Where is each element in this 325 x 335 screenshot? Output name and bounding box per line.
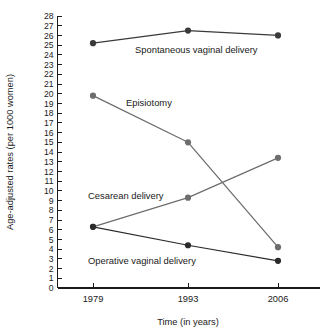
data-point-1979: [90, 93, 96, 99]
x-axis-title: Time (in years): [157, 317, 219, 327]
y-tick-label-11: 11: [45, 176, 54, 186]
y-tick-label-17: 17: [44, 118, 54, 128]
y-axis: 0123456789101112131415161718192021222324…: [5, 11, 62, 293]
y-tick-label-1: 1: [49, 273, 54, 283]
data-point-2006: [275, 155, 281, 161]
data-point-1979: [90, 40, 96, 46]
x-axis: 197919932006 Time (in years): [58, 283, 321, 327]
y-tick-label-10: 10: [44, 186, 54, 196]
line-chart: 0123456789101112131415161718192021222324…: [0, 0, 325, 335]
series-line: [93, 31, 278, 44]
y-tick-label-25: 25: [44, 40, 54, 50]
series-episiotomy: [90, 93, 281, 251]
y-tick-label-20: 20: [44, 89, 54, 99]
data-point-1993: [185, 139, 191, 145]
data-point-1993: [185, 242, 191, 248]
data-point-2006: [275, 258, 281, 264]
x-axis-ticks: [93, 283, 278, 288]
y-tick-label-14: 14: [44, 147, 54, 157]
x-tick-label-2006: 2006: [268, 294, 289, 304]
x-tick-label-1993: 1993: [178, 294, 199, 304]
y-tick-label-19: 19: [44, 99, 54, 109]
y-tick-label-21: 21: [44, 79, 54, 89]
y-tick-label-9: 9: [49, 196, 54, 206]
series-label-operative-vaginal-delivery: Operative vaginal delivery: [88, 255, 196, 266]
data-point-1979: [90, 224, 96, 230]
y-tick-label-6: 6: [49, 225, 54, 235]
data-point-2006: [275, 32, 281, 38]
data-point-2006: [275, 244, 281, 250]
y-tick-label-5: 5: [49, 235, 54, 245]
y-tick-label-12: 12: [44, 167, 54, 177]
figure-container: 0123456789101112131415161718192021222324…: [0, 0, 325, 335]
y-tick-label-16: 16: [44, 128, 54, 138]
y-tick-label-27: 27: [44, 21, 54, 31]
y-axis-title: Age-adjusted rates (per 1000 women): [5, 74, 15, 230]
y-tick-label-2: 2: [49, 264, 54, 274]
y-tick-label-13: 13: [44, 157, 54, 167]
y-tick-label-22: 22: [44, 69, 54, 79]
x-axis-tick-labels: 197919932006: [83, 294, 289, 304]
y-tick-label-23: 23: [44, 60, 54, 70]
y-tick-label-4: 4: [49, 244, 54, 254]
y-tick-label-28: 28: [44, 11, 54, 21]
series-label-cesarean-delivery: Cesarean delivery: [88, 190, 164, 201]
data-series-group: [90, 27, 281, 263]
y-tick-label-7: 7: [49, 215, 54, 225]
y-tick-label-15: 15: [44, 137, 54, 147]
series-label-spontaneous-vaginal-delivery: Spontaneous vaginal delivery: [135, 44, 258, 55]
data-point-1993: [185, 195, 191, 201]
y-axis-tick-labels: 0123456789101112131415161718192021222324…: [44, 11, 54, 293]
y-tick-label-26: 26: [44, 31, 54, 41]
series-annotations: Spontaneous vaginal deliveryEpisiotomyCe…: [88, 44, 258, 266]
y-tick-label-8: 8: [49, 205, 54, 215]
x-tick-label-1979: 1979: [83, 294, 104, 304]
series-line: [93, 96, 278, 248]
series-label-episiotomy: Episiotomy: [126, 97, 172, 108]
data-point-1993: [185, 27, 191, 33]
y-tick-label-18: 18: [44, 108, 54, 118]
y-tick-label-0: 0: [49, 283, 54, 293]
y-tick-label-24: 24: [44, 50, 54, 60]
y-tick-label-3: 3: [49, 254, 54, 264]
